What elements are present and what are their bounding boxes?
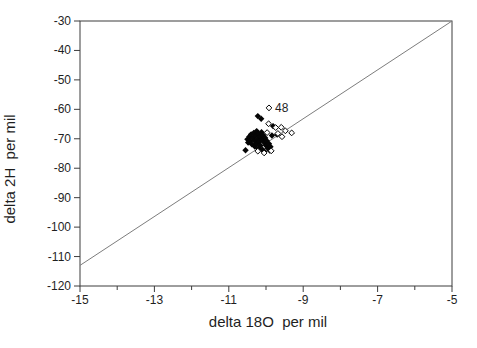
x-tick-label: -11 [221, 293, 238, 307]
x-tick-label: -9 [298, 293, 309, 307]
y-tick-label: -70 [54, 132, 72, 146]
y-tick-label: -100 [47, 220, 71, 234]
y-tick-label: -50 [54, 73, 72, 87]
x-tick-label: -5 [447, 293, 458, 307]
data-point-open-diamond [266, 105, 272, 111]
y-tick-label: -60 [54, 102, 72, 116]
x-axis-label: delta 18O per mil [209, 313, 327, 330]
scatter-plot: delta 18O per mil delta 2H per mil -15-1… [0, 0, 477, 348]
y-tick-label: -90 [54, 191, 72, 205]
data-point-filled-diamond [242, 147, 248, 153]
data-point-open-diamond [289, 130, 295, 136]
y-axis-label: delta 2H per mil [1, 114, 18, 223]
y-tick-label: -30 [54, 14, 72, 28]
y-tick-label: -110 [48, 250, 71, 264]
y-tick-label: -80 [54, 161, 72, 175]
scatter-figure: delta 18O per mil delta 2H per mil -15-1… [0, 0, 477, 348]
y-tick-label: -40 [54, 43, 72, 57]
x-tick-label: -13 [146, 293, 164, 307]
y-tick-label: -120 [47, 279, 71, 293]
x-tick-label: -7 [372, 293, 383, 307]
x-tick-label: -15 [71, 293, 89, 307]
point-annotation: 48 [275, 101, 289, 115]
